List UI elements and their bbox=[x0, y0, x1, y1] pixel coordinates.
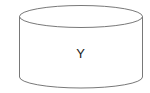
cylinder-label: Y bbox=[19, 46, 142, 62]
cylinder-top-ellipse bbox=[20, 6, 143, 28]
